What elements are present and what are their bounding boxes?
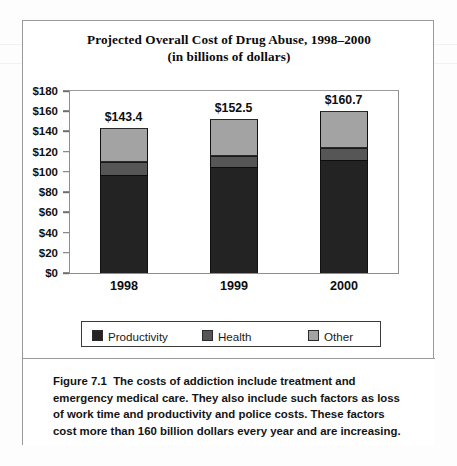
legend-label: Other [324,330,353,343]
bar-total-label: $160.7 [307,93,381,107]
legend-item-health[interactable]: Health [202,327,252,343]
bar-segment-health [210,156,258,167]
chart-area: $180$160$140$120$100$80$60$40$20$0 $143.… [23,87,435,309]
y-axis-label: $0 [45,267,58,279]
caption-box: Figure 7.1 The costs of addiction includ… [23,358,435,446]
legend-swatch-health-icon [202,330,213,341]
bar-segment-productivity [210,167,258,273]
legend-item-other[interactable]: Other [308,327,353,343]
y-axis-label: $80 [39,186,58,198]
bar-segment-productivity [320,160,368,273]
legend-swatch-other-icon [308,330,319,341]
figure-caption: Figure 7.1 The costs of addiction includ… [53,373,405,439]
legend-swatch-productivity-icon [92,330,103,341]
x-axis-label-2000: 2000 [309,279,379,293]
bar-segment-other [100,128,148,162]
bar-total-label: $152.5 [197,101,271,115]
bar-2000: $160.7 [320,111,368,273]
x-axis-labels: 199819992000 [69,277,399,301]
y-axis-label: $140 [32,125,58,137]
legend-label: Productivity [108,330,168,343]
caption-figure-number: Figure 7.1 [53,375,107,387]
chart-title-line-1: Projected Overall Cost of Drug Abuse, 19… [23,31,435,48]
bar-1998: $143.4 [100,128,148,273]
bar-segment-other [210,119,258,156]
figure-frame: Projected Overall Cost of Drug Abuse, 19… [22,20,434,445]
bar-total-label: $143.4 [87,110,161,124]
bar-segment-health [100,162,148,175]
y-axis: $180$160$140$120$100$80$60$40$20$0 [23,87,67,277]
chart-title-line-2: (in billions of dollars) [23,48,435,65]
bar-segment-health [320,148,368,160]
x-axis-label-1998: 1998 [89,279,159,293]
chart-title: Projected Overall Cost of Drug Abuse, 19… [23,31,435,65]
legend-label: Health [218,330,252,343]
y-axis-label: $180 [32,85,58,97]
legend-item-productivity[interactable]: Productivity [92,327,168,343]
chart-legend: ProductivityHealthOther [81,321,381,347]
y-axis-label: $20 [39,247,58,259]
figure-page: Projected Overall Cost of Drug Abuse, 19… [0,0,457,466]
x-axis-label-1999: 1999 [199,279,269,293]
y-axis-label: $100 [32,166,58,178]
y-axis-label: $120 [32,146,58,158]
plot-area: $143.4$152.5$160.7 [69,90,399,274]
y-axis-label: $160 [32,105,58,117]
y-axis-label: $60 [39,206,58,218]
bar-segment-other [320,111,368,148]
y-axis-label: $40 [39,227,58,239]
bar-1999: $152.5 [210,119,258,273]
bar-segment-productivity [100,175,148,273]
